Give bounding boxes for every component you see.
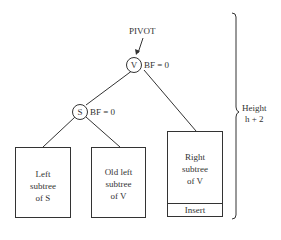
right-subtree-line2: subtree — [168, 163, 222, 175]
old-left-subtree-line3: of V — [92, 190, 145, 202]
right-subtree-of-v: Right subtree of V Insert — [167, 131, 223, 217]
node-s: S — [72, 104, 88, 120]
node-v: V — [126, 57, 142, 73]
node-v-balance-factor: BF = 0 — [144, 60, 169, 71]
old-left-subtree-line2: subtree — [92, 178, 145, 190]
old-left-subtree-line1: Old left — [92, 166, 145, 178]
left-subtree-line1: Left — [16, 168, 70, 180]
insert-label: Insert — [168, 204, 222, 216]
left-subtree-line3: of S — [16, 192, 70, 204]
left-subtree-of-s: Left subtree of S — [15, 147, 71, 218]
right-subtree-line1: Right — [168, 151, 222, 163]
left-subtree-line2: subtree — [16, 180, 70, 192]
height-value: h + 2 — [245, 114, 264, 125]
node-s-balance-factor: BF = 0 — [90, 107, 115, 118]
pivot-label: PIVOT — [129, 26, 156, 37]
old-left-subtree-of-v: Old left subtree of V — [91, 147, 146, 218]
right-subtree-line3: of V — [168, 175, 222, 187]
height-label: Height — [242, 103, 267, 114]
